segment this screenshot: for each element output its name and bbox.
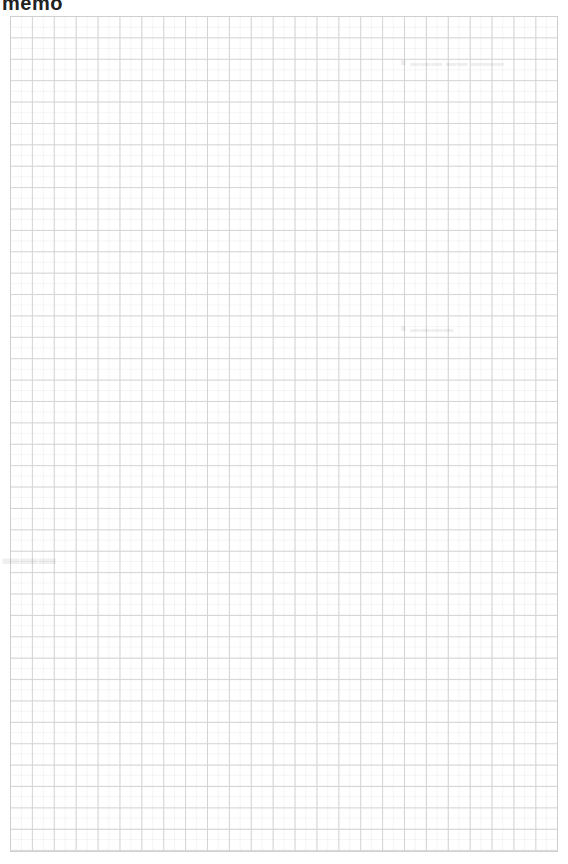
bleed-through-text: ▬▬▬: [2, 548, 56, 569]
bleed-through-text: ■ ▬▬▬ ▬▬ ▬▬▬: [400, 56, 504, 68]
grid-paper: [10, 16, 558, 852]
page-title: memo: [2, 0, 63, 15]
bleed-through-text: ■ ▬▬▬▬: [400, 322, 454, 334]
